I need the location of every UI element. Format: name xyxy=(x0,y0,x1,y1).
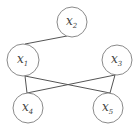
edge-x2-x1 xyxy=(25,36,67,44)
edge-x3-x5 xyxy=(110,75,115,93)
node-x5: x5 xyxy=(93,93,123,123)
node-x3: x3 xyxy=(102,45,132,75)
graph-diagram: x2x1x3x4x5 xyxy=(0,0,135,129)
node-x2: x2 xyxy=(57,7,87,37)
edge-x3-x4 xyxy=(27,75,115,93)
edge-x1-x4 xyxy=(25,76,27,93)
nodes: x2x1x3x4x5 xyxy=(7,7,132,123)
node-x4: x4 xyxy=(13,93,43,123)
node-x1: x1 xyxy=(7,44,39,76)
